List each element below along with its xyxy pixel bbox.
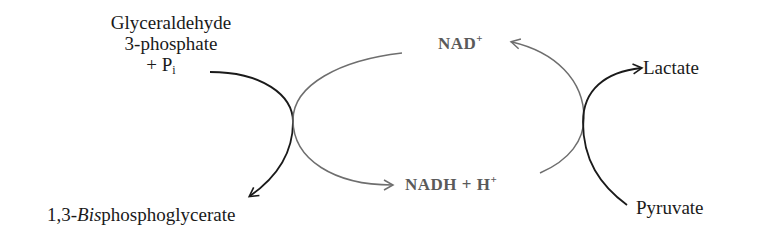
- pi-prefix: + P: [146, 54, 172, 75]
- g3p-line1: Glyceraldehyde: [88, 12, 254, 33]
- arrow-nad-to-nadh: [293, 53, 402, 185]
- arrow-pyruvate-to-lactate: [583, 68, 641, 205]
- cofactor-nad: NAD+: [438, 33, 483, 54]
- substrate-g3p: Glyceraldehyde 3-phosphate + Pi: [88, 12, 254, 75]
- substrate-pyruvate: Pyruvate: [636, 197, 704, 218]
- product-lactate: Lactate: [643, 57, 699, 78]
- arrow-nadh-to-nad: [512, 42, 584, 173]
- arrow-g3p-to-bpg: [210, 72, 293, 196]
- product-bpg: 1,3-Bisphosphoglycerate: [47, 204, 235, 225]
- pi-subscript: i: [172, 63, 175, 77]
- g3p-line3: + Pi: [68, 54, 254, 75]
- g3p-line2: 3-phosphate: [88, 33, 254, 54]
- cofactor-nadh: NADH + H+: [405, 174, 497, 195]
